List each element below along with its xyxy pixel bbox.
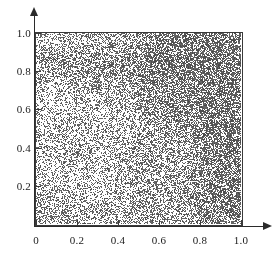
scatter-points-layer (36, 33, 242, 225)
x-axis-line (35, 226, 265, 227)
y-tick-0 (36, 186, 41, 187)
y-tick-label-0: 0.2 (17, 180, 31, 192)
y-tick-2 (36, 109, 41, 110)
x-tick-label-2: 0.4 (111, 234, 125, 246)
y-tick-label-4: 1.0 (17, 27, 31, 39)
x-tick-label-4: 0.8 (193, 234, 207, 246)
x-tick-2 (118, 220, 119, 225)
scatter-density-figure: 00.20.40.60.81.0 0.20.40.60.81.0 (0, 0, 278, 263)
x-tick-label-0: 0 (33, 234, 39, 246)
y-tick-3 (36, 71, 41, 72)
x-tick-0 (36, 220, 37, 225)
x-tick-4 (200, 220, 201, 225)
x-axis-arrow-icon (263, 222, 272, 230)
y-tick-label-3: 0.8 (17, 65, 31, 77)
x-tick-label-5: 1.0 (234, 234, 248, 246)
x-tick-label-1: 0.2 (70, 234, 84, 246)
y-tick-label-2: 0.6 (17, 103, 31, 115)
y-tick-4 (36, 33, 41, 34)
y-tick-1 (36, 148, 41, 149)
y-tick-label-1: 0.4 (17, 142, 31, 154)
y-axis-arrow-icon (30, 7, 38, 16)
x-tick-label-3: 0.6 (152, 234, 166, 246)
x-tick-5 (241, 220, 242, 225)
x-tick-3 (159, 220, 160, 225)
x-tick-1 (77, 220, 78, 225)
plot-area (35, 32, 243, 226)
